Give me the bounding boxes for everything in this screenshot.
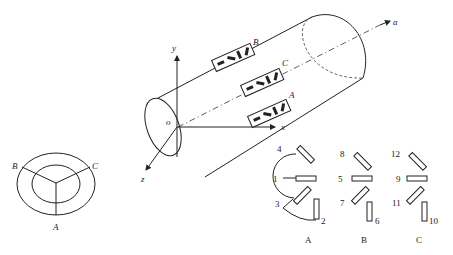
gauge-6	[367, 202, 372, 221]
section-label-a: A	[52, 222, 59, 232]
cross-section: A B C	[12, 153, 99, 232]
axis-a-label: a	[393, 17, 398, 27]
rosette-a: 4 1 3 2 A	[273, 144, 326, 245]
radius-b	[22, 167, 56, 183]
gauge-9	[407, 176, 427, 181]
rosette-b: 8 5 7 6 B	[338, 149, 380, 245]
gauge-number-7: 7	[340, 198, 345, 208]
rosette-a-arc-lower	[283, 208, 316, 220]
gauge-number-5: 5	[338, 174, 343, 184]
gauge-3	[294, 187, 312, 205]
section-label-b: B	[12, 161, 18, 171]
gauge-10	[422, 202, 427, 221]
gauge-1	[296, 176, 316, 181]
gauge-patch-b	[212, 43, 255, 71]
gauge-number-2: 2	[321, 216, 326, 226]
rosette-a-leader-3	[283, 199, 293, 208]
gauge-number-12: 12	[391, 149, 400, 159]
rosette-label-b: B	[361, 235, 367, 245]
gauge-number-9: 9	[396, 174, 401, 184]
strain-gauge-diagram: a y x z o B C A	[0, 0, 453, 255]
x-axis-label: x	[280, 122, 285, 132]
gauge-5	[352, 176, 372, 181]
gauge-2	[314, 199, 319, 219]
z-axis-arrow	[146, 127, 177, 170]
gauge-number-6: 6	[375, 216, 380, 226]
gauge-number-8: 8	[340, 149, 345, 159]
gauge-8	[354, 153, 372, 171]
gauge-label-c: C	[282, 58, 289, 68]
gauge-4	[297, 146, 315, 164]
gauge-number-11: 11	[392, 198, 401, 208]
gauge-12	[409, 153, 427, 171]
axis-a-arrow	[380, 21, 390, 25]
gauge-number-10: 10	[429, 216, 439, 226]
gauge-number-4: 4	[277, 144, 282, 154]
gauge-number-3: 3	[275, 199, 280, 209]
gauge-label-b: B	[253, 37, 259, 47]
gauge-patch-c	[241, 68, 284, 96]
rosette-label-c: C	[416, 235, 422, 245]
cylinder-back-end-hidden	[302, 17, 363, 78]
rosette-label-a: A	[305, 235, 312, 245]
rosette-c: 12 9 11 10 C	[391, 149, 439, 245]
radius-c	[56, 167, 90, 183]
gauge-number-1: 1	[273, 174, 278, 184]
cylinder-back-end-visible	[312, 15, 366, 78]
section-label-c: C	[92, 161, 99, 171]
gauge-label-a: A	[288, 90, 295, 100]
origin-label: o	[166, 117, 171, 127]
z-axis-label: z	[140, 174, 145, 184]
y-axis-label: y	[171, 43, 176, 53]
